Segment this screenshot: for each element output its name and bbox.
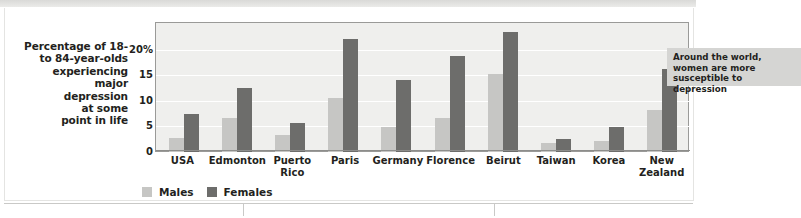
chart-plot-area: Around the world, women are more suscept… (155, 22, 689, 152)
bar-group-beirut (476, 24, 529, 152)
y-axis-title-line-0: Percentage of 18- (8, 40, 128, 52)
bar-females-edmonton (237, 88, 252, 152)
y-axis-title-line-2: experiencing (8, 65, 128, 77)
bar-males-paris (328, 98, 343, 152)
bar-group-usa (157, 24, 210, 152)
legend-label-males: Males (159, 186, 194, 198)
bar-group-germany (370, 24, 423, 152)
y-axis-ticks: 20%151050 (112, 22, 153, 152)
axis-baseline (156, 150, 690, 151)
legend-label-females: Females (224, 186, 273, 198)
annotation-callout: Around the world, women are more suscept… (667, 48, 801, 86)
legend-item-females: Females (207, 186, 273, 198)
bar-females-florence (450, 56, 465, 152)
y-axis-title-line-5: at some (8, 102, 128, 114)
top-band (0, 0, 696, 7)
legend-swatch-females (207, 187, 217, 197)
bar-males-florence (435, 118, 450, 152)
x-tick-label-usa: USA (156, 155, 209, 181)
y-tick-label-0: 0 (113, 146, 153, 157)
bar-females-puerto-rico (290, 123, 305, 152)
x-tick-label-germany: Germany (371, 155, 424, 181)
y-axis-title-line-1: to 84-year-olds (8, 52, 128, 64)
bar-males-edmonton (222, 118, 237, 152)
bottom-rule (4, 203, 693, 204)
y-axis-title: Percentage of 18-to 84-year-oldsexperien… (8, 40, 128, 127)
x-tick-label-puerto-rico: Puerto Rico (266, 155, 319, 181)
bar-group-puerto-rico (263, 24, 316, 152)
legend-swatch-males (142, 187, 152, 197)
y-axis-title-line-3: major (8, 77, 128, 89)
bottom-tick-2 (494, 203, 495, 216)
bottom-tick-1 (243, 203, 244, 216)
x-tick-label-korea: Korea (583, 155, 636, 181)
y-axis-title-line-4: depression (8, 90, 128, 102)
x-tick-label-new-zealand: New Zealand (635, 155, 688, 181)
plot-frame (155, 22, 689, 152)
bar-females-beirut (503, 32, 518, 152)
bar-group-korea (583, 24, 636, 152)
bar-females-paris (343, 39, 358, 152)
bar-females-korea (609, 127, 624, 152)
x-tick-label-edmonton: Edmonton (209, 155, 266, 181)
x-axis-labels: USAEdmontonPuerto RicoParisGermanyFloren… (156, 155, 688, 181)
bar-males-new-zealand (647, 110, 662, 152)
bar-groups (157, 24, 689, 152)
bar-males-beirut (488, 74, 503, 152)
bar-group-florence (423, 24, 476, 152)
x-tick-label-taiwan: Taiwan (530, 155, 583, 181)
x-tick-label-florence: Florence (424, 155, 477, 181)
x-tick-label-beirut: Beirut (477, 155, 530, 181)
legend-item-males: Males (142, 186, 194, 198)
chart-legend: Males Females (142, 186, 272, 198)
bar-group-paris (317, 24, 370, 152)
y-tick-label-10: 10 (113, 94, 153, 105)
y-tick-label-5: 5 (113, 120, 153, 131)
y-tick-label-20: 20% (113, 43, 153, 54)
bar-females-usa (184, 114, 199, 152)
bar-females-germany (396, 80, 411, 152)
bar-males-germany (381, 127, 396, 152)
y-axis-title-line-6: point in life (8, 114, 128, 126)
y-tick-label-15: 15 (113, 69, 153, 80)
bar-group-taiwan (529, 24, 582, 152)
x-tick-label-paris: Paris (319, 155, 372, 181)
bar-group-edmonton (210, 24, 263, 152)
